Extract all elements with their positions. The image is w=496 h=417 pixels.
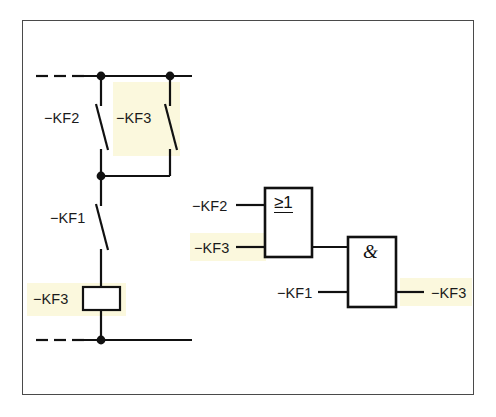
contact-kf1-blade: [96, 204, 108, 250]
and-gate-symbol: &: [363, 241, 378, 263]
label-contact-kf1: −KF1: [50, 210, 85, 226]
circuit-linework: [0, 0, 496, 417]
junction-dot-bottom: [97, 336, 106, 345]
label-contact-kf2: −KF2: [44, 110, 79, 126]
contact-kf2-blade: [96, 104, 108, 150]
or-gate-symbol-text: ≥1: [274, 193, 293, 213]
junction-dot-top-left: [97, 72, 106, 81]
label-and-input-kf1: −KF1: [277, 285, 312, 301]
label-contact-kf3: −KF3: [116, 110, 151, 126]
label-coil-kf3: −KF3: [33, 291, 68, 307]
diagram-canvas: −KF2 −KF3 −KF1 −KF3 −KF2 −KF3 −KF1 −KF3 …: [0, 0, 496, 417]
label-or-input-kf3: −KF3: [194, 240, 229, 256]
coil-kf3-body: [83, 287, 120, 310]
contact-kf3-blade: [165, 104, 177, 150]
junction-dot-top-right: [166, 72, 175, 81]
or-gate-symbol: ≥1: [274, 193, 293, 213]
label-or-input-kf2: −KF2: [192, 198, 227, 214]
junction-dot-mid-left: [97, 172, 106, 181]
label-and-output-kf3: −KF3: [431, 285, 466, 301]
